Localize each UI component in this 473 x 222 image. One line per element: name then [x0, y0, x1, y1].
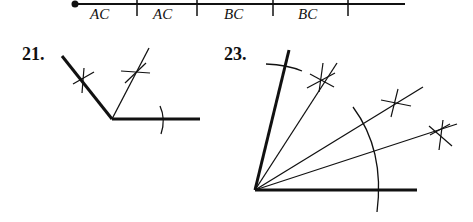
problem-number-21: 21.: [22, 44, 45, 65]
figure-21: [62, 48, 200, 134]
segment-label-bc-2: BC: [298, 6, 317, 23]
construction-figures: [0, 0, 473, 222]
figure-23: [255, 50, 457, 212]
segment-label-bc-1: BC: [224, 6, 243, 23]
problem-number-23: 23.: [224, 44, 247, 65]
segment-label-ac-1: AC: [90, 6, 109, 23]
segment-label-ac-2: AC: [153, 6, 172, 23]
